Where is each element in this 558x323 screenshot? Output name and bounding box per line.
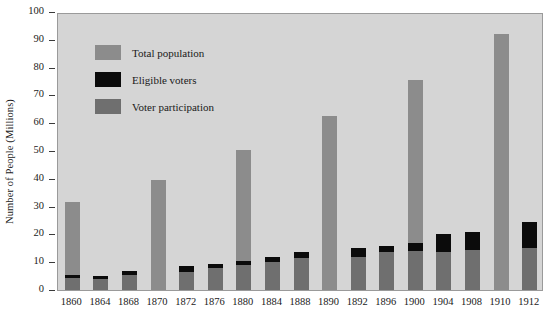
bar-group[interactable] bbox=[379, 12, 394, 290]
bar-segment bbox=[179, 272, 194, 290]
bar-segment bbox=[208, 268, 223, 290]
legend-item[interactable]: Eligible voters bbox=[95, 69, 214, 90]
bar-group[interactable] bbox=[465, 12, 480, 290]
y-tick-mark bbox=[49, 123, 55, 124]
bar-group[interactable] bbox=[322, 12, 337, 290]
bar-group[interactable] bbox=[436, 12, 451, 290]
bar-segment bbox=[151, 180, 166, 290]
y-tick-label: 100 bbox=[0, 5, 44, 16]
y-tick-mark bbox=[49, 12, 55, 13]
y-tick-mark bbox=[49, 68, 55, 69]
y-tick-mark bbox=[49, 40, 55, 41]
bar-group[interactable] bbox=[408, 12, 423, 290]
bar-segment bbox=[436, 252, 451, 290]
y-tick-label: 10 bbox=[0, 255, 44, 266]
bar-segment bbox=[522, 248, 537, 290]
bar-segment bbox=[93, 279, 108, 290]
y-tick-mark bbox=[49, 95, 55, 96]
y-tick-label: 20 bbox=[0, 227, 44, 238]
y-tick-label: 80 bbox=[0, 61, 44, 72]
chart-legend: Total populationEligible votersVoter par… bbox=[95, 42, 214, 123]
y-tick-mark bbox=[49, 179, 55, 180]
bar-segment bbox=[236, 265, 251, 290]
bar-segment bbox=[322, 116, 337, 290]
bar-group[interactable] bbox=[494, 12, 509, 290]
y-tick-mark bbox=[49, 151, 55, 152]
bar-segment bbox=[265, 262, 280, 290]
bar-segment bbox=[465, 250, 480, 290]
bar-group[interactable] bbox=[351, 12, 366, 290]
legend-item[interactable]: Total population bbox=[95, 42, 214, 63]
y-tick-label: 60 bbox=[0, 116, 44, 127]
y-tick-label: 90 bbox=[0, 33, 44, 44]
bar-segment bbox=[408, 251, 423, 290]
y-tick-mark bbox=[49, 207, 55, 208]
y-tick-mark bbox=[49, 234, 55, 235]
legend-item[interactable]: Voter participation bbox=[95, 96, 214, 117]
legend-swatch-icon bbox=[95, 99, 121, 114]
legend-swatch-icon bbox=[95, 72, 121, 87]
legend-label: Voter participation bbox=[132, 101, 214, 113]
bar-group[interactable] bbox=[265, 12, 280, 290]
bar-segment bbox=[351, 257, 366, 290]
legend-label: Eligible voters bbox=[132, 74, 196, 86]
y-tick-mark bbox=[49, 290, 55, 291]
y-axis-title: Number of People (Millions) bbox=[0, 0, 18, 323]
bar-group[interactable] bbox=[65, 12, 80, 290]
y-tick-label: 30 bbox=[0, 200, 44, 211]
bar-group[interactable] bbox=[294, 12, 309, 290]
bar-segment bbox=[379, 252, 394, 290]
bar-group[interactable] bbox=[522, 12, 537, 290]
y-tick-label: 40 bbox=[0, 172, 44, 183]
bar-segment bbox=[294, 258, 309, 290]
y-tick-label: 0 bbox=[0, 283, 44, 294]
bar-group[interactable] bbox=[236, 12, 251, 290]
bar-segment bbox=[494, 34, 509, 290]
x-axis-label: 1912 bbox=[509, 296, 549, 307]
bar-segment bbox=[65, 278, 80, 291]
y-tick-mark bbox=[49, 262, 55, 263]
bar-segment bbox=[122, 275, 137, 290]
voter-participation-bar-chart: Number of People (Millions) 010203040506… bbox=[0, 0, 558, 323]
legend-label: Total population bbox=[132, 47, 204, 59]
y-tick-label: 70 bbox=[0, 88, 44, 99]
y-tick-label: 50 bbox=[0, 144, 44, 155]
legend-swatch-icon bbox=[95, 45, 121, 60]
